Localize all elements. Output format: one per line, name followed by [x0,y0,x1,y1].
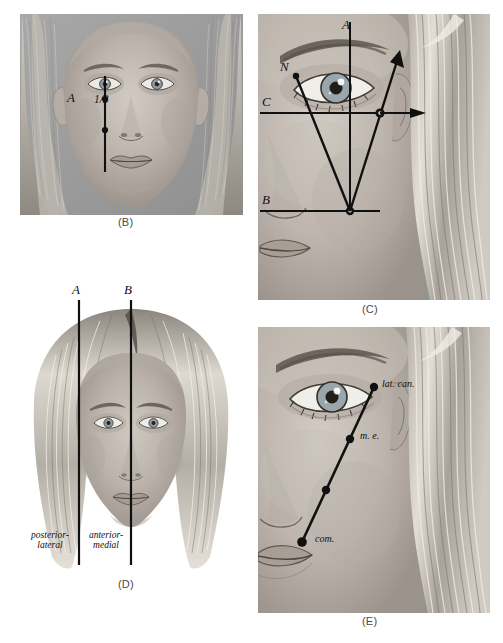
panel-caption-c: (C) [362,303,378,315]
region-label-anterior-line1: anterior- [89,530,123,540]
axis-label-b: B [262,193,270,207]
panel-e: lat. can. m. e. com. [258,327,490,613]
region-label-posterior-line1: posterior- [31,530,69,540]
axis-label-c: C [262,95,271,109]
plane-label-a: A [72,285,80,297]
axis-label-a: A [342,18,350,32]
panel-caption-d: (D) [118,578,134,590]
figure-root: A 1/3 (B) [0,0,503,643]
panel-caption-b: (B) [118,216,133,228]
region-label-anterior-line2: medial [93,540,119,550]
region-label-posterior-line2: lateral [37,540,62,550]
fraction-label-one-third: 1/3 [94,93,109,105]
panel-c-illustration [258,14,490,300]
panel-caption-e: (E) [362,615,377,627]
panel-c: C B A N [258,14,490,300]
panel-d: A B posterior- lateral anterior- medial [20,285,243,578]
panel-b-illustration [20,14,243,215]
region-label-anterior-medial: anterior- medial [83,531,129,551]
plane-label-b: B [124,285,132,297]
landmark-label-m-e: m. e. [360,431,379,442]
landmark-label-com: com. [315,534,334,545]
landmark-label-lat-can: lat. can. [382,379,415,390]
panel-e-illustration [258,327,490,613]
panel-b: A 1/3 [20,14,243,215]
region-label-posterior-lateral: posterior- lateral [25,531,75,551]
point-label-n: N [280,60,289,74]
point-label-a: A [67,91,75,105]
